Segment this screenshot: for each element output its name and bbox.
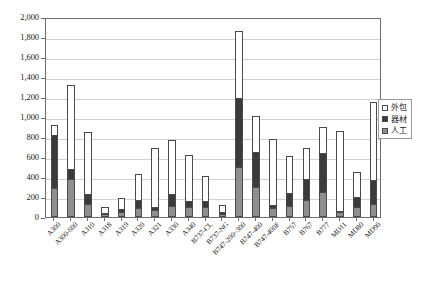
y-tick-label: 400 <box>27 173 39 182</box>
bar-segment-outsource <box>202 176 210 201</box>
bar-a300-600[interactable] <box>67 85 75 217</box>
bar-b747-400[interactable] <box>252 116 260 217</box>
legend-label: 外包 <box>391 103 407 112</box>
legend-swatch-icon <box>382 116 388 122</box>
y-tick-label: 200 <box>27 193 39 202</box>
gridline <box>46 39 380 40</box>
gridline <box>46 59 380 60</box>
bar-segment-outsource <box>252 116 260 152</box>
legend-item-0[interactable]: 外包 <box>382 103 407 112</box>
bar-segment-outsource <box>235 31 243 98</box>
legend-item-1[interactable]: 器材 <box>382 115 407 124</box>
x-tick-label: A321 <box>146 220 164 238</box>
bar-segment-labor <box>303 200 311 217</box>
gridline <box>46 179 380 180</box>
bar-md90[interactable] <box>370 102 378 217</box>
x-tick-label: B767 <box>297 220 314 237</box>
bar-a300[interactable] <box>51 125 59 217</box>
bar-segment-equipment <box>168 194 176 207</box>
gridline <box>46 159 380 160</box>
bar-segment-labor <box>336 212 344 217</box>
bar-md11[interactable] <box>336 131 344 217</box>
gridline <box>46 99 380 100</box>
bar-segment-outsource <box>135 174 143 200</box>
y-axis: 02004006008001,0001,2001,4001,6001,8002,… <box>0 0 43 293</box>
bar-b747-200-300[interactable] <box>235 31 243 217</box>
bar-a340[interactable] <box>185 155 193 217</box>
bar-md80[interactable] <box>353 172 361 217</box>
y-tick-label: 1,000 <box>20 113 39 122</box>
x-tick-label: B757 <box>281 220 298 237</box>
bar-segment-equipment <box>252 152 260 188</box>
x-tick-mark <box>121 218 122 221</box>
bar-b737-ng[interactable] <box>219 205 227 217</box>
y-tick-label: 600 <box>27 153 39 162</box>
bar-segment-labor <box>185 207 193 217</box>
bar-segment-equipment <box>303 179 311 201</box>
bar-segment-equipment <box>370 180 378 205</box>
bar-segment-equipment <box>67 169 75 180</box>
y-tick-label: 1,600 <box>20 53 39 62</box>
legend-label: 人工 <box>391 126 407 135</box>
bar-b747-400f[interactable] <box>269 139 277 217</box>
bar-segment-labor <box>51 188 59 217</box>
y-tick-label: 1,400 <box>20 73 39 82</box>
bar-segment-labor <box>67 179 75 217</box>
bar-segment-labor <box>370 204 378 217</box>
x-tick-label: A318 <box>96 220 114 238</box>
y-tick-label: 0 <box>35 213 39 222</box>
bar-a310[interactable] <box>84 132 92 217</box>
bar-a319[interactable] <box>118 198 126 217</box>
bar-segment-outsource <box>286 156 294 193</box>
bar-segment-labor <box>135 208 143 217</box>
x-tick-mark <box>205 218 206 221</box>
x-tick-label: B777 <box>314 220 331 237</box>
bar-segment-labor <box>168 206 176 217</box>
legend-label: 器材 <box>391 115 407 124</box>
x-axis: A300A300-600A310A318A319A320A321A330A340… <box>45 220 381 293</box>
bar-segment-labor <box>235 167 243 217</box>
x-tick-label: MD90 <box>362 220 382 240</box>
gridline <box>46 119 380 120</box>
bar-segment-labor <box>202 207 210 217</box>
y-tick-label: 2,000 <box>20 13 39 22</box>
x-tick-label: A320 <box>129 220 147 238</box>
gridline <box>46 79 380 80</box>
bar-segment-labor <box>319 192 327 217</box>
bar-segment-labor <box>118 212 126 217</box>
chart-legend: 外包器材人工 <box>378 99 412 139</box>
bar-segment-outsource <box>319 127 327 153</box>
bar-a320[interactable] <box>135 174 143 217</box>
bar-segment-outsource <box>84 132 92 194</box>
bar-b777[interactable] <box>319 127 327 217</box>
x-tick-label: A330 <box>163 220 181 238</box>
bar-segment-labor <box>353 207 361 218</box>
gridline <box>46 139 380 140</box>
bar-segment-outsource <box>336 131 344 211</box>
bar-segment-labor <box>84 204 92 217</box>
bar-a318[interactable] <box>101 207 109 217</box>
bar-segment-labor <box>101 214 109 217</box>
y-tick-mark <box>41 218 45 219</box>
legend-swatch-icon <box>382 128 388 134</box>
bar-b767[interactable] <box>303 148 311 217</box>
x-tick-label: MD11 <box>329 220 348 239</box>
bar-segment-labor <box>219 214 227 218</box>
y-tick-label: 1,200 <box>20 93 39 102</box>
bar-segment-outsource <box>151 148 159 207</box>
bar-segment-labor <box>269 208 277 217</box>
bar-b737-cl[interactable] <box>202 176 210 217</box>
bar-segment-labor <box>252 187 260 217</box>
stacked-bar-chart: 02004006008001,0001,2001,4001,6001,8002,… <box>0 0 448 293</box>
bar-segment-equipment <box>286 193 294 207</box>
y-tick-label: 1,800 <box>20 33 39 42</box>
bar-a330[interactable] <box>168 140 176 217</box>
bar-b757[interactable] <box>286 156 294 217</box>
y-tick-label: 800 <box>27 133 39 142</box>
x-tick-label: A310 <box>79 220 97 238</box>
bar-segment-equipment <box>235 98 243 168</box>
bar-segment-labor <box>151 210 159 217</box>
bar-segment-equipment <box>51 135 59 189</box>
legend-item-2[interactable]: 人工 <box>382 126 407 135</box>
bar-a321[interactable] <box>151 148 159 217</box>
